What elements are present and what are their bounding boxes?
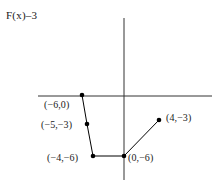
point-label-neg4-neg6: (−4,−6) — [47, 152, 78, 163]
coordinate-plane — [0, 0, 221, 186]
data-point-marker — [80, 93, 85, 98]
data-point-marker — [85, 122, 90, 127]
point-label-4-neg3: (4,−3) — [166, 112, 191, 123]
data-point-marker — [91, 154, 96, 159]
point-label-neg6-0: (−6,0) — [44, 99, 69, 110]
point-label-neg5-neg3: (−5,−3) — [41, 119, 72, 130]
data-point-marker — [157, 118, 162, 123]
point-label-0-neg6: (0,−6) — [128, 152, 153, 163]
graph-figure: F(x)–3 (−6,0) (−5,−3) (−4,−6) (0,−6) (4,… — [0, 0, 221, 186]
function-polyline — [82, 95, 159, 156]
data-point-marker — [122, 154, 127, 159]
